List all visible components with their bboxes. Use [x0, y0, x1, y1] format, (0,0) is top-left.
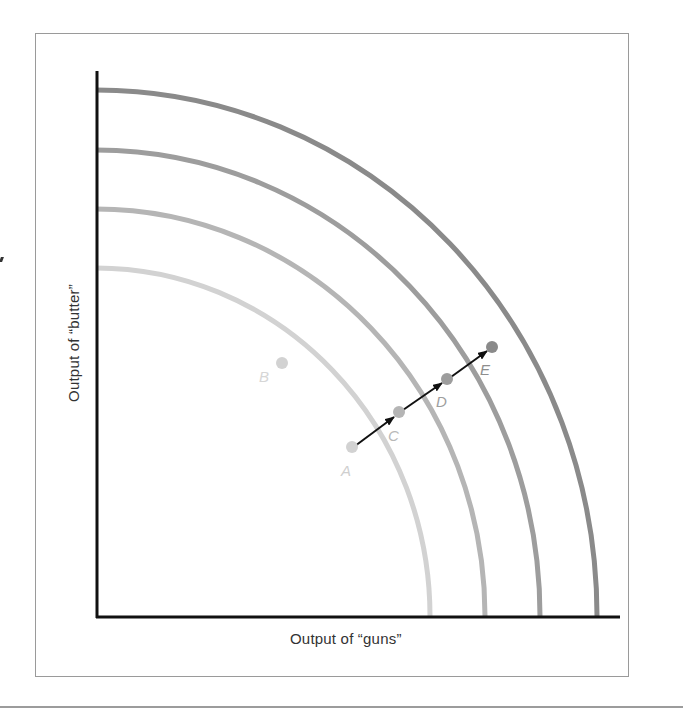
point-e [486, 341, 498, 353]
point-d [441, 373, 453, 385]
ppf-curve-3 [96, 150, 540, 616]
point-a [346, 441, 358, 453]
label-d: D [436, 393, 447, 410]
label-e: E [480, 361, 491, 378]
y-axis-label: Output of “butter” [65, 284, 82, 402]
ppf-curve-1 [96, 268, 430, 616]
label-a: A [340, 462, 351, 479]
label-c: C [388, 427, 399, 444]
point-b [276, 357, 288, 369]
label-b: B [259, 368, 269, 385]
ppf-curve-4 [96, 90, 597, 616]
x-axis-label: Output of “guns” [290, 630, 402, 647]
point-c [393, 406, 405, 418]
ppf-diagram: B A C D E [0, 0, 683, 719]
